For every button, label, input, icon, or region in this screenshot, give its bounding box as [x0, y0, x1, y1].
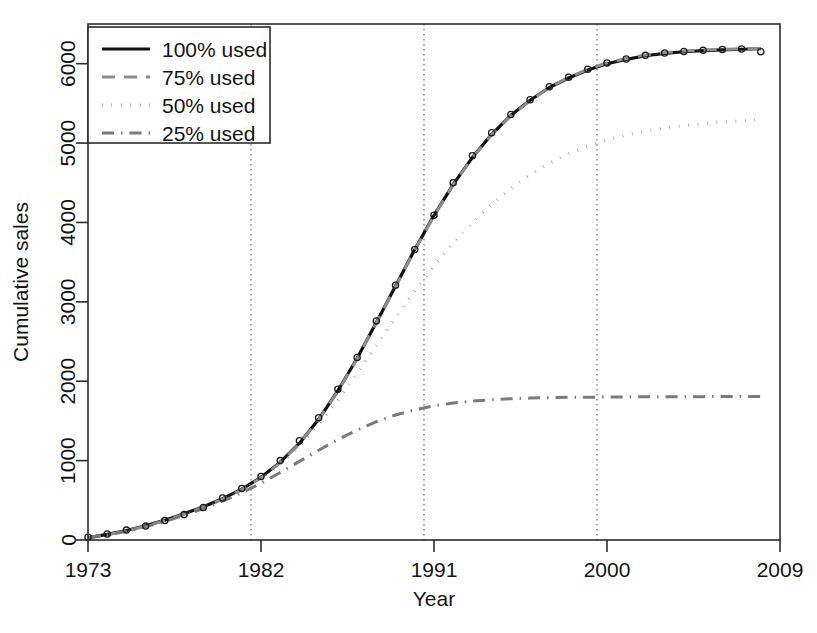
figure-container: 19731982199120002009 0100020003000400050…: [0, 0, 817, 633]
series-line-25-used: [88, 396, 761, 537]
y-axis-title: Cumulative sales: [9, 202, 32, 362]
x-tick-label-1982: 1982: [238, 558, 285, 581]
legend-label-25-used[interactable]: 25% used: [162, 122, 255, 145]
y-tick-label-0: 0: [57, 534, 80, 546]
y-tick-label-1000: 1000: [57, 437, 80, 484]
legend-label-75-used[interactable]: 75% used: [162, 66, 255, 89]
y-tick-label-2000: 2000: [57, 358, 80, 405]
x-tick-label-1991: 1991: [411, 558, 458, 581]
y-tick-label-4000: 4000: [57, 199, 80, 246]
x-tick-label-1973: 1973: [65, 558, 112, 581]
x-tick-label-2009: 2009: [757, 558, 804, 581]
x-axis-title: Year: [413, 587, 455, 610]
x-axis: 19731982199120002009: [65, 540, 804, 581]
gridlines-group: [251, 24, 597, 540]
y-tick-label-6000: 6000: [57, 40, 80, 87]
legend[interactable]: 100% used75% used50% used25% used: [88, 27, 270, 145]
x-tick-label-2000: 2000: [584, 558, 631, 581]
y-axis: 0100020003000400050006000: [57, 40, 89, 546]
cumulative-sales-chart: 19731982199120002009 0100020003000400050…: [0, 0, 817, 633]
legend-label-50-used[interactable]: 50% used: [162, 94, 255, 117]
y-tick-label-5000: 5000: [57, 120, 80, 167]
y-tick-label-3000: 3000: [57, 278, 80, 325]
legend-label-100-used[interactable]: 100% used: [162, 38, 267, 61]
